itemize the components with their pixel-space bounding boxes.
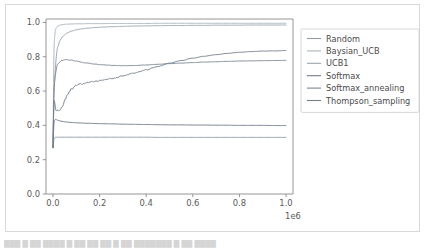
series-line-baysian_ucb [53,23,286,147]
y-tick-label: 0.2 [27,155,40,165]
legend-label-thompson_sampling[interactable]: Thompson_sampling [325,96,410,106]
x-axis-exponent-label: 1e6 [285,211,301,221]
x-tick-label: 0.8 [233,198,246,208]
legend-label-baysian_ucb[interactable]: Baysian_UCB [326,46,380,56]
footer-fragment-line: ███ █ ██ ████ █ ██ ██ ██ █ ██ ███████ █ … [4,240,304,248]
legend-label-softmax_annealing[interactable]: Softmax_annealing [326,83,404,93]
y-tick-label: 0.0 [27,189,40,199]
tick-labels-group: 0.00.20.40.60.81.00.00.20.40.60.81.01e6 [27,17,301,221]
y-tick-label: 0.4 [27,120,40,130]
axis-spines-top-right [46,19,293,194]
series-line-random [53,137,286,147]
footer-text-fragment: ███ █ ██ ████ █ ██ ██ ██ █ ██ ███████ █ … [4,240,304,248]
figure-container: 0.00.20.40.60.81.00.00.20.40.60.81.01e6 … [5,4,420,232]
series-line-softmax [53,119,286,147]
x-tick-label: 0.4 [140,198,153,208]
series-curves-group [53,23,286,147]
axis-spines [46,19,293,194]
legend[interactable]: RandomBaysian_UCBUCB1SoftmaxSoftmax_anne… [301,29,419,112]
x-tick-label: 1.0 [279,198,292,208]
x-tick-label: 0.6 [186,198,199,208]
y-tick-label: 0.8 [27,52,40,62]
x-tick-label: 0.2 [93,198,106,208]
series-line-ucb1 [53,25,286,148]
series-line-softmax_annealing [53,60,286,148]
plot-area-wrapper: 0.00.20.40.60.81.00.00.20.40.60.81.01e6 … [6,5,419,231]
x-tick-label: 0.0 [46,198,59,208]
series-line-thompson_sampling [53,51,286,148]
axes-group [43,19,293,197]
y-tick-label: 0.6 [27,86,40,96]
y-tick-label: 1.0 [27,17,40,27]
line-chart: 0.00.20.40.60.81.00.00.20.40.60.81.01e6 … [6,5,421,233]
legend-label-ucb1[interactable]: UCB1 [326,58,349,68]
legend-label-random[interactable]: Random [326,34,360,44]
legend-label-softmax[interactable]: Softmax [326,71,360,81]
